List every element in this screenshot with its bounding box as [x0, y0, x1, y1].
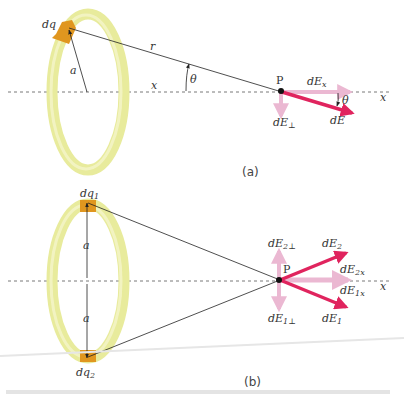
point-P-a — [278, 88, 284, 94]
point-label-P-b: P — [283, 263, 291, 276]
dEperp-label: dE⊥ — [273, 116, 296, 130]
angle-label-theta: θ — [190, 73, 197, 86]
dq1-label: dq1 — [80, 187, 99, 201]
axis-distance-label-x: x — [151, 79, 158, 92]
dq2-label: dq2 — [76, 366, 95, 380]
dE1-label: dE1 — [322, 312, 342, 326]
dEx-label: dEx — [307, 75, 327, 89]
page-divider-2 — [6, 390, 390, 394]
dE1perp-label: dE1⊥ — [268, 312, 296, 326]
angle-arc-theta — [186, 64, 189, 91]
caption-b: (b) — [244, 375, 261, 389]
axis-label-x-b: x — [380, 280, 387, 293]
panel-b: dq1 dq2 a a P dE2⊥ dE1⊥ dE2 dE1 dE2x dE1… — [8, 187, 392, 389]
panel-a: dq a r x θ θ P dEx dE⊥ dE x (a) — [8, 14, 392, 179]
radius-label-a: a — [70, 64, 77, 77]
distance-line-r — [69, 28, 282, 92]
radius-line-a — [69, 30, 87, 92]
dE-label: dE — [330, 114, 345, 127]
dE-angle-label: θ — [342, 94, 349, 107]
point-label-P-a: P — [276, 74, 284, 87]
dE1x-label: dE1x — [340, 284, 365, 298]
dE2x-label: dE2x — [340, 263, 365, 277]
dE-angle-arc — [337, 93, 338, 106]
dE1-vector — [280, 280, 346, 307]
point-P-b — [276, 277, 282, 283]
dq-label: dq — [42, 18, 56, 31]
dE2-label: dE2 — [322, 237, 342, 251]
ring-electric-field-diagram: dq a r x θ θ P dEx dE⊥ dE x (a) — [0, 0, 404, 403]
caption-a: (a) — [242, 165, 259, 179]
charge-element-dq1 — [80, 200, 96, 212]
dE2perp-label: dE2⊥ — [268, 237, 296, 251]
radius-label-bottom: a — [83, 312, 90, 325]
radius-label-top: a — [83, 239, 90, 252]
axis-label-x-a: x — [380, 91, 387, 104]
distance-label-r: r — [150, 40, 156, 53]
